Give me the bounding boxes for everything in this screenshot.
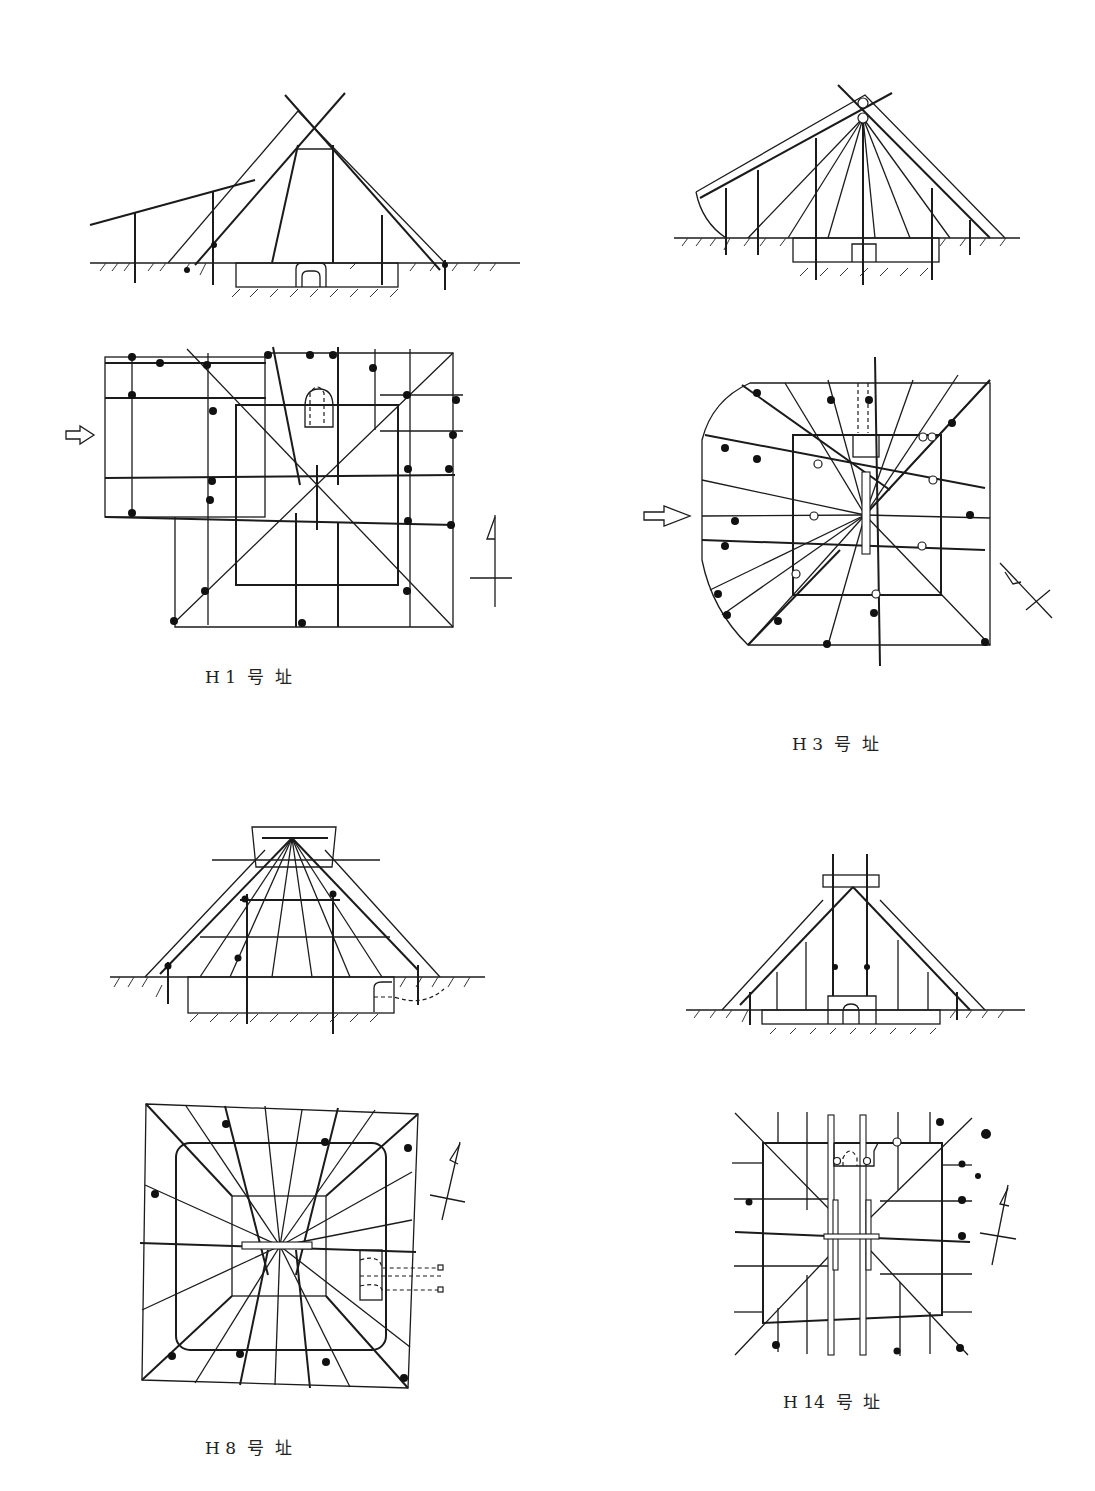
caption-h1: H 1 号 址: [205, 663, 292, 688]
h8-plan-drawing: [120, 1080, 480, 1410]
h8-section-drawing: [100, 822, 500, 1062]
caption-h8: H 8 号 址: [205, 1434, 292, 1459]
arrow-right-icon: [644, 506, 690, 526]
caption-h14: H 14 号 址: [783, 1388, 880, 1413]
north-arrow-icon: [980, 1185, 1016, 1265]
h1-section-drawing: [90, 85, 530, 295]
h1-plan-drawing: [60, 335, 530, 635]
north-arrow-icon: [470, 515, 512, 607]
north-arrow-icon: [1000, 563, 1052, 618]
h3-plan-drawing: [640, 320, 1070, 680]
page-header: [400, 0, 700, 10]
h14-plan-drawing: [720, 1100, 1040, 1390]
north-arrow-icon: [430, 1142, 465, 1220]
h14-section-drawing: [680, 840, 1040, 1040]
caption-h3: H 3 号 址: [792, 730, 879, 755]
h3-section-drawing: [660, 70, 1040, 300]
arrow-right-icon: [66, 426, 94, 444]
